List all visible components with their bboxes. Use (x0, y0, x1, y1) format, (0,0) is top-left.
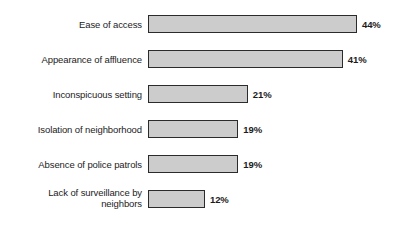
bar-group: 12% (148, 190, 229, 208)
category-label: Appearance of affluence (4, 54, 142, 65)
category-label: Isolation of neighborhood (4, 124, 142, 135)
bar-row: Ease of access 44% (0, 14, 396, 34)
value-label: 12% (210, 194, 229, 205)
bar-group: 44% (148, 15, 381, 33)
value-label: 41% (348, 54, 367, 65)
value-label: 21% (253, 89, 272, 100)
value-label: 44% (362, 19, 381, 30)
bar-row: Appearance of affluence 41% (0, 49, 396, 69)
bar-group: 41% (148, 50, 367, 68)
bar (148, 120, 238, 138)
bar (148, 15, 357, 33)
bar-row: Inconspicuous setting 21% (0, 84, 396, 104)
value-label: 19% (243, 124, 262, 135)
bar (148, 85, 248, 103)
bar-chart: Ease of access 44% Appearance of affluen… (0, 0, 396, 235)
bar-group: 19% (148, 120, 262, 138)
category-label: Inconspicuous setting (4, 89, 142, 100)
bar-row: Isolation of neighborhood 19% (0, 119, 396, 139)
bar (148, 50, 343, 68)
bar-row: Absence of police patrols 19% (0, 154, 396, 174)
bar (148, 155, 238, 173)
value-label: 19% (243, 159, 262, 170)
category-label: Lack of surveillance by neighbors (4, 187, 142, 209)
category-label: Ease of access (4, 19, 142, 30)
bar-group: 19% (148, 155, 262, 173)
category-label: Absence of police patrols (4, 159, 142, 170)
bar (148, 190, 205, 208)
bar-row: Lack of surveillance by neighbors 12% (0, 189, 396, 209)
bar-group: 21% (148, 85, 272, 103)
